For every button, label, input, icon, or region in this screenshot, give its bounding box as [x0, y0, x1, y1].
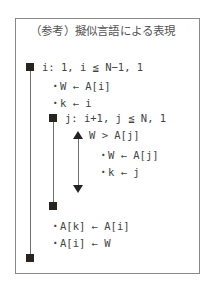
selection-start-triangle-icon — [73, 131, 83, 139]
statement-w-assign-aj: ・W ← A[j] — [98, 147, 159, 162]
selection-condition: W > A[j] — [89, 129, 140, 141]
pseudocode-title: （参考）擬似言語による表現 — [30, 22, 176, 38]
inner-loop-header: j: i+1, j ≦ N, 1 — [65, 112, 166, 124]
statement-ak-assign-ai: ・A[k] ← A[i] — [50, 218, 130, 233]
outer-loop-start-icon — [26, 63, 34, 71]
outer-loop-header: i: 1, i ≦ N−1, 1 — [42, 61, 143, 73]
outer-loop-line — [30, 71, 31, 255]
inner-loop-line — [53, 122, 54, 203]
outer-loop-end-icon — [26, 254, 34, 262]
statement-k-assign-j: ・k ← j — [98, 164, 140, 179]
statement-w-assign-ai: ・W ← A[i] — [50, 78, 111, 93]
inner-loop-end-icon — [49, 202, 57, 210]
selection-line — [78, 139, 79, 186]
statement-ai-assign-w: ・A[i] ← W — [50, 235, 111, 250]
selection-end-triangle-icon — [73, 185, 83, 193]
statement-k-assign-i: ・k ← i — [50, 95, 92, 110]
inner-loop-start-icon — [49, 114, 57, 122]
